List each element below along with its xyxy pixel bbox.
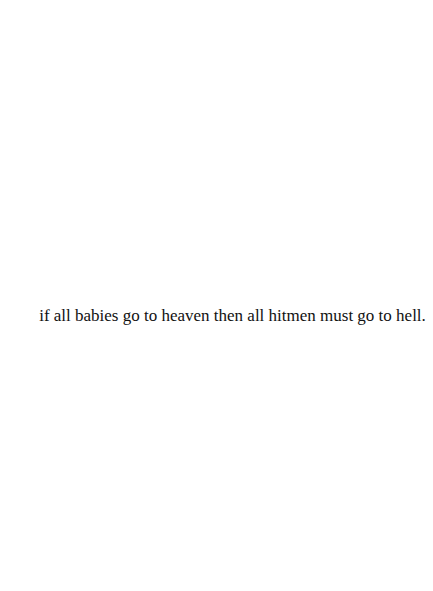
quote-text: if all babies go to heaven then all hitm… (0, 305, 433, 327)
